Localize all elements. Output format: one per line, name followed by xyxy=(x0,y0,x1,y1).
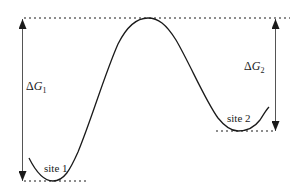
dg1-label: ΔG1 xyxy=(26,79,46,95)
site2-label: site 2 xyxy=(227,112,251,124)
energy-profile-curve xyxy=(29,18,269,181)
dg2-label: ΔG2 xyxy=(244,59,264,75)
energy-diagram: ΔG1 ΔG2 site 1 site 2 xyxy=(0,0,292,195)
site1-label: site 1 xyxy=(44,162,68,174)
